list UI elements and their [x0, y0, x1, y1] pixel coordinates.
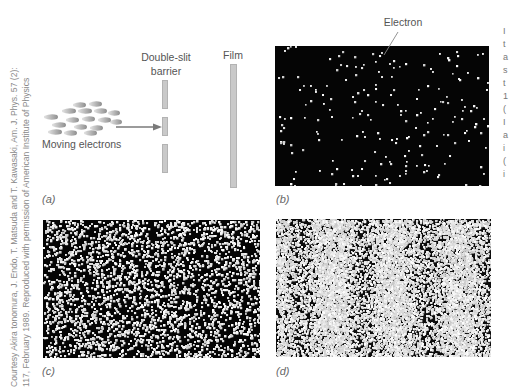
pointer-line-icon [380, 30, 402, 58]
edge-fragment: I [503, 25, 510, 38]
edge-fragment: I [503, 116, 510, 129]
edge-fragment: s [503, 64, 510, 77]
panel-c-label: (c) [42, 365, 55, 377]
arrow-right-icon [115, 121, 163, 133]
barrier-label-line-1: Double-slit [135, 50, 197, 64]
panel-d-label: (d) [276, 365, 289, 377]
photo-credit: Courtesy Akira tonomura, J. Endo, T. Mat… [8, 7, 32, 387]
edge-fragment: 1 [503, 90, 510, 103]
film-label: Film [218, 49, 248, 61]
edge-fragment: i [503, 168, 510, 181]
film-strip [230, 64, 237, 188]
barrier-segment-top [162, 80, 168, 109]
edge-fragment: t [503, 38, 510, 51]
interference-pattern-image [276, 219, 491, 357]
panel-a-label: (a) [42, 193, 55, 205]
many-electrons-image [43, 220, 260, 358]
barrier-label-line-2: barrier [135, 64, 197, 78]
edge-fragment: t [503, 77, 510, 90]
edge-fragment: i [503, 142, 510, 155]
electron-annotation: Electron [378, 16, 428, 28]
edge-fragment: a [503, 129, 510, 142]
edge-fragment: ( [503, 155, 510, 168]
barrier-segment-middle [162, 117, 168, 136]
credit-line-1: Courtesy Akira tonomura, J. Endo, T. Mat… [8, 7, 20, 387]
moving-electrons-label: Moving electrons [42, 138, 121, 150]
double-slit-barrier-label: Double-slit barrier [135, 50, 197, 78]
single-electron-image [275, 46, 489, 186]
right-edge-text-fragments: Itast1(Iai(i [503, 25, 510, 181]
edge-fragment: a [503, 51, 510, 64]
edge-fragment: ( [503, 103, 510, 116]
credit-line-2: 117, February 1989. Reproduced with perm… [20, 7, 32, 387]
barrier-segment-bottom [162, 144, 168, 173]
panel-b-label: (b) [276, 193, 289, 205]
